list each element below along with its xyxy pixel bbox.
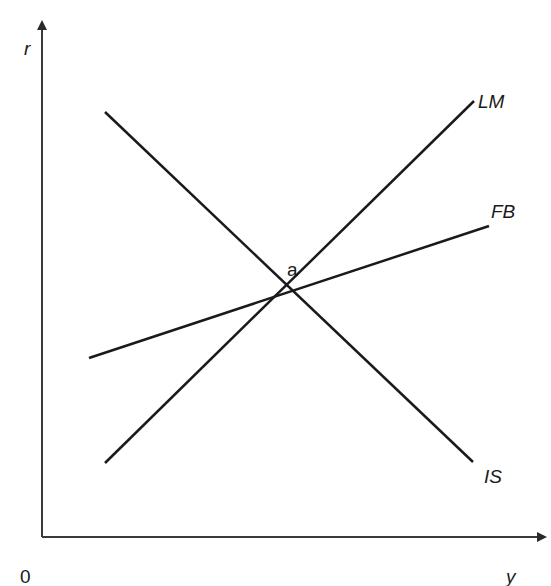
lm-label: LM	[478, 91, 505, 112]
equilibrium-point-label: a	[287, 259, 298, 280]
y-axis-label: r	[24, 38, 31, 59]
origin-label: 0	[20, 566, 31, 586]
is-label: IS	[484, 466, 502, 487]
fb-label: FB	[491, 201, 516, 222]
x-axis-label: y	[504, 566, 517, 586]
is-lm-fb-diagram: r y 0 LM FB IS a	[0, 0, 551, 586]
fb-curve	[89, 226, 489, 358]
